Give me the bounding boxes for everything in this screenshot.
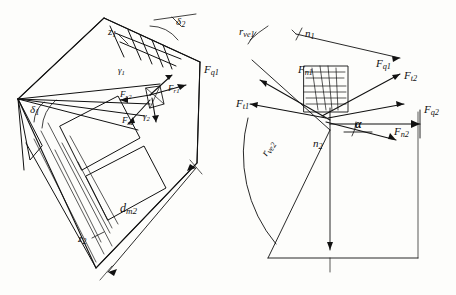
label-fx2: Fx2 xyxy=(122,116,134,126)
label-ft1: Ft1 xyxy=(236,98,249,111)
label-gamma2: γ2 xyxy=(143,112,150,122)
delta2-arc xyxy=(150,14,196,40)
label-fn2: Fn2 xyxy=(394,126,409,139)
label-fq1-left: Fq1 xyxy=(204,64,219,77)
body-slots xyxy=(60,96,166,220)
dm2-dimension xyxy=(100,160,202,280)
label-alpha: α xyxy=(355,118,362,130)
label-delta1: δ1 xyxy=(30,104,39,117)
label-fq2: Fq2 xyxy=(424,104,439,117)
label-rve1: rve1 xyxy=(239,26,255,39)
label-z1: z1 xyxy=(108,26,116,39)
label-n1: n1 xyxy=(305,28,315,41)
label-fr2: Fr2 xyxy=(120,90,132,100)
label-dm2: dm2 xyxy=(120,202,137,216)
bevel-gear-force-diagram xyxy=(0,0,456,295)
label-z2: z2 xyxy=(78,233,86,246)
label-fn1: Fn1 xyxy=(298,64,313,77)
label-gamma1: γ1 xyxy=(118,66,125,76)
hatched-section-lower xyxy=(34,123,118,262)
label-n2: n2 xyxy=(313,138,323,151)
label-fr1: Fr1 xyxy=(168,84,180,94)
label-ft2: Ft2 xyxy=(404,70,417,83)
diagram-root: z1 z2 δ2 δ1 γ1 γ2 Fr2 Fx2 Fr1 Fq1 rve1 r… xyxy=(0,0,456,295)
label-delta2: δ2 xyxy=(176,16,185,29)
label-fq1-right: Fq1 xyxy=(376,58,391,71)
z1-leader xyxy=(118,34,128,44)
gear-teeth-top xyxy=(104,18,200,69)
z2-leader xyxy=(92,232,104,238)
